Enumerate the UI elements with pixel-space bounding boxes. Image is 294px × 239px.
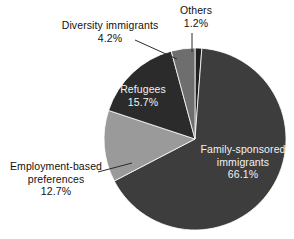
pie-slices — [104, 48, 286, 230]
pie-label-refugees-value: 15.7% — [103, 96, 183, 109]
pie-label-others-value: 1.2% — [161, 17, 231, 30]
pie-label-employment-name-1: Employment-based — [2, 160, 110, 173]
pie-label-employment: Employment-based preferences 12.7% — [2, 160, 110, 198]
pie-label-others-name: Others — [161, 4, 231, 17]
pie-label-diversity: Diversity immigrants 4.2% — [52, 19, 168, 44]
pie-label-employment-name-2: preferences — [2, 173, 110, 186]
pie-label-diversity-value: 4.2% — [52, 32, 168, 45]
pie-label-family-sponsored: Family-sponsored immigrants 66.1% — [197, 143, 289, 181]
pie-label-family-name-2: immigrants — [197, 156, 289, 169]
pie-label-family-value: 66.1% — [197, 168, 289, 181]
pie-label-employment-value: 12.7% — [2, 185, 110, 198]
pie-label-refugees: Refugees 15.7% — [103, 83, 183, 108]
pie-label-family-name-1: Family-sponsored — [197, 143, 289, 156]
pie-label-refugees-name: Refugees — [103, 83, 183, 96]
pie-label-diversity-name: Diversity immigrants — [52, 19, 168, 32]
pie-chart-figure: Diversity immigrants 4.2% Others 1.2% Re… — [0, 0, 294, 239]
pie-label-others: Others 1.2% — [161, 4, 231, 29]
